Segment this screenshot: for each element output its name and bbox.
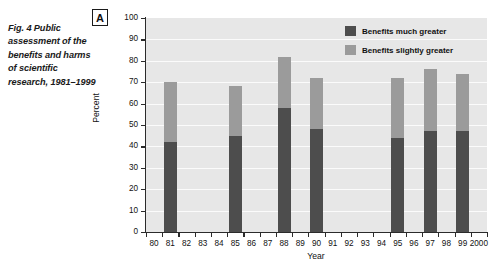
y-axis-label: Percent (91, 93, 101, 123)
x-tick-mark (422, 233, 423, 237)
y-tick-mark (141, 232, 145, 233)
y-tick-label: 10 (110, 206, 138, 215)
y-tick-label: 30 (110, 163, 138, 172)
y-tick-mark (141, 168, 145, 169)
y-tick-label: 80 (110, 56, 138, 65)
x-tick-mark (471, 233, 472, 237)
bar-88 (278, 57, 291, 232)
bar-chart: 0102030405060708090100 80818283848586878… (0, 0, 499, 267)
bar-segment-much-greater (229, 136, 242, 232)
legend: Benefits much greater Benefits slightly … (345, 26, 453, 64)
y-tick-label: 50 (110, 120, 138, 129)
y-tick-mark (141, 211, 145, 212)
bar-segment-much-greater (424, 131, 437, 232)
y-tick-mark (141, 146, 145, 147)
legend-item-slightly-greater: Benefits slightly greater (345, 45, 453, 55)
x-tick-mark (276, 233, 277, 237)
y-tick-label: 90 (110, 35, 138, 44)
x-tick-label: 89 (296, 239, 305, 248)
x-tick-label: 83 (198, 239, 207, 248)
x-tick-mark (438, 233, 439, 237)
bar-segment-slightly-greater (164, 82, 177, 142)
y-tick-mark (141, 61, 145, 62)
bar-segment-slightly-greater (310, 78, 323, 129)
x-tick-label: 90 (312, 239, 321, 248)
bar-segment-much-greater (278, 108, 291, 232)
legend-label-slightly-greater: Benefits slightly greater (362, 46, 453, 55)
x-tick-label: 91 (328, 239, 337, 248)
bar-segment-much-greater (391, 138, 404, 232)
x-tick-mark (325, 233, 326, 237)
bar-90 (310, 78, 323, 232)
x-tick-mark (211, 233, 212, 237)
x-tick-label: 99 (458, 239, 467, 248)
x-tick-label: 80 (150, 239, 159, 248)
y-tick-mark (141, 82, 145, 83)
x-tick-mark (390, 233, 391, 237)
x-tick-label: 92 (344, 239, 353, 248)
bar-segment-much-greater (310, 129, 323, 232)
bar-segment-slightly-greater (229, 86, 242, 135)
x-tick-mark (341, 233, 342, 237)
bar-segment-slightly-greater (456, 74, 469, 132)
x-tick-mark (227, 233, 228, 237)
y-tick-mark (141, 18, 145, 19)
x-axis-label: Year (307, 251, 324, 261)
y-tick-label: 60 (110, 99, 138, 108)
bar-segment-much-greater (456, 131, 469, 232)
y-axis-line (145, 17, 146, 233)
x-tick-label: 95 (393, 239, 402, 248)
x-tick-mark (292, 233, 293, 237)
bar-segment-slightly-greater (391, 78, 404, 138)
x-tick-mark (373, 233, 374, 237)
x-axis-line (145, 232, 488, 233)
y-tick-mark (141, 39, 145, 40)
x-tick-label: 86 (247, 239, 256, 248)
x-tick-mark (455, 233, 456, 237)
bar-99 (456, 74, 469, 232)
x-tick-mark (162, 233, 163, 237)
y-tick-label: 0 (110, 227, 138, 236)
y-tick-mark (141, 104, 145, 105)
x-tick-label: 94 (377, 239, 386, 248)
x-tick-label: 84 (215, 239, 224, 248)
x-tick-mark (406, 233, 407, 237)
x-tick-mark (195, 233, 196, 237)
y-tick-label: 20 (110, 185, 138, 194)
x-tick-mark (260, 233, 261, 237)
y-tick-label: 40 (110, 142, 138, 151)
x-tick-label: 96 (409, 239, 418, 248)
y-tick-label: 70 (110, 78, 138, 87)
x-tick-label: 81 (166, 239, 175, 248)
y-axis-ticks: 0102030405060708090100 (104, 0, 138, 267)
y-tick-mark (141, 189, 145, 190)
bar-95 (391, 78, 404, 232)
x-tick-mark (178, 233, 179, 237)
y-tick-mark (141, 125, 145, 126)
x-tick-label: 97 (426, 239, 435, 248)
bar-81 (164, 82, 177, 232)
bar-segment-slightly-greater (424, 69, 437, 131)
x-tick-label: 82 (182, 239, 191, 248)
x-tick-mark (146, 233, 147, 237)
y-tick-label: 100 (110, 13, 138, 22)
x-tick-label: 85 (231, 239, 240, 248)
bar-segment-slightly-greater (278, 57, 291, 108)
x-tick-label: 93 (361, 239, 370, 248)
x-tick-mark (308, 233, 309, 237)
bar-97 (424, 69, 437, 232)
legend-label-much-greater: Benefits much greater (362, 27, 446, 36)
x-tick-mark (487, 233, 488, 237)
x-tick-mark (357, 233, 358, 237)
legend-swatch-much-greater (345, 26, 356, 36)
x-tick-label: 88 (279, 239, 288, 248)
legend-item-much-greater: Benefits much greater (345, 26, 453, 36)
x-tick-mark (243, 233, 244, 237)
bar-segment-much-greater (164, 142, 177, 232)
x-tick-label: 2000 (470, 239, 488, 248)
legend-swatch-slightly-greater (345, 45, 356, 55)
x-tick-label: 87 (263, 239, 272, 248)
bar-85 (229, 86, 242, 232)
x-tick-label: 98 (442, 239, 451, 248)
